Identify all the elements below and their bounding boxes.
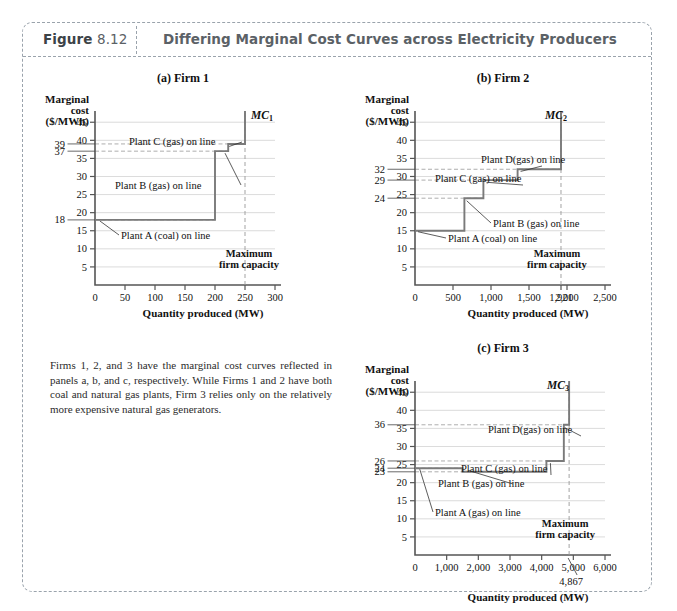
x-ticklabel: 6,000 xyxy=(593,562,617,573)
x-axis-title: Quantity produced (MW) xyxy=(468,591,589,604)
x-ticklabel: 0 xyxy=(412,562,417,573)
x-ticklabel: 4,000 xyxy=(530,562,554,573)
chart-firm3: 5101520253035404501,0002,0003,0004,0005,… xyxy=(23,23,651,591)
y-ticklabel: 5 xyxy=(402,532,407,543)
y-ticklabel: 20 xyxy=(397,477,408,488)
capacity-note-line1: Maximum xyxy=(542,518,589,529)
mc-curve-label: MC3 xyxy=(546,379,569,393)
y-ticklabel: 30 xyxy=(397,441,408,452)
annotation-plant-c: Plant C (gas) on line xyxy=(461,463,548,475)
y-ticklabel: 10 xyxy=(397,513,408,524)
figure-caption: Firms 1, 2, and 3 have the marginal cost… xyxy=(50,358,332,416)
x-ticklabel: 1,000 xyxy=(435,562,459,573)
y-special-label: 23 xyxy=(375,466,386,477)
y-special-label: 36 xyxy=(375,419,386,430)
x-ticklabel: 2,000 xyxy=(467,562,491,573)
y-ticklabel: 40 xyxy=(397,405,408,416)
capacity-value-label: 4,867 xyxy=(559,576,583,587)
x-ticklabel: 3,000 xyxy=(498,562,522,573)
plot-area: 5101520253035404501,0002,0003,0004,0005,… xyxy=(365,363,617,604)
annotation-plant-a: Plant A (gas) on line xyxy=(435,507,521,519)
leader-plant-a xyxy=(420,469,433,512)
capacity-note-line2: firm capacity xyxy=(535,529,596,540)
figure-frame: Figure 8.12 Differing Marginal Cost Curv… xyxy=(22,22,652,592)
annotation-plant-d: Plant D(gas) on line xyxy=(488,424,573,436)
y-ticklabel: 15 xyxy=(397,495,408,506)
y-axis-title-line3: ($/MWh) xyxy=(366,385,410,398)
